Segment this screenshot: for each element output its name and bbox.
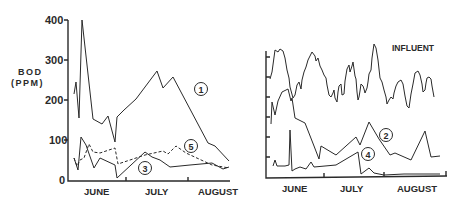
svg-text:2: 2: [383, 131, 388, 141]
bod-figure: BOD (PPM) 400 300 200 100 0 JUNE JULY AU…: [0, 0, 456, 206]
x-label-july: JULY: [145, 186, 169, 197]
y-tick-200: 200: [45, 94, 63, 106]
left-chart: BOD (PPM) 400 300 200 100 0 JUNE JULY AU…: [11, 14, 238, 197]
right-chart: JUNE JULY AUGUST INFLUENT 2 4: [266, 43, 447, 194]
svg-text:3: 3: [142, 164, 147, 174]
right-x-label-june: JUNE: [282, 183, 307, 194]
series-4-marker: 4: [362, 148, 375, 161]
series-2-line: [271, 89, 440, 160]
series-2-marker: 2: [380, 129, 393, 142]
svg-text:4: 4: [365, 150, 370, 160]
y-tick-0: 0: [59, 174, 65, 186]
series-3-marker: 3: [139, 162, 152, 175]
series-5-marker: 5: [185, 140, 198, 153]
influent-line: [270, 44, 434, 108]
influent-label: INFLUENT: [392, 43, 435, 53]
right-axes: [266, 51, 447, 178]
svg-text:1: 1: [198, 85, 203, 95]
right-x-label-july: JULY: [340, 183, 364, 194]
x-label-june: JUNE: [84, 186, 109, 197]
series-5-line: [74, 144, 229, 168]
y-axis-label-ppm: (PPM): [11, 78, 44, 88]
svg-text:5: 5: [188, 142, 193, 152]
right-x-label-august: AUGUST: [397, 183, 437, 194]
series-1-marker: 1: [195, 83, 208, 96]
y-axis-label-bod: BOD: [18, 67, 43, 77]
x-label-august: AUGUST: [198, 186, 238, 197]
y-tick-400: 400: [45, 14, 63, 26]
series-3-line: [74, 137, 229, 178]
left-axes: [68, 20, 230, 181]
y-tick-300: 300: [45, 54, 63, 66]
